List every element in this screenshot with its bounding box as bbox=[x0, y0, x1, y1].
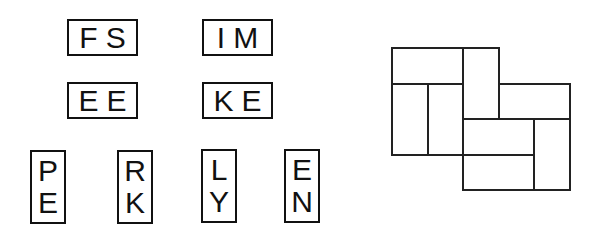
board-slot[interactable] bbox=[427, 83, 465, 156]
board-slot[interactable] bbox=[498, 83, 571, 121]
board-slot[interactable] bbox=[462, 118, 535, 156]
domino-board bbox=[0, 0, 596, 244]
board-slot[interactable] bbox=[391, 47, 464, 85]
board-slot[interactable] bbox=[462, 154, 535, 192]
board-slot[interactable] bbox=[533, 118, 571, 191]
board-slot[interactable] bbox=[462, 47, 500, 120]
board-slot[interactable] bbox=[391, 83, 429, 156]
